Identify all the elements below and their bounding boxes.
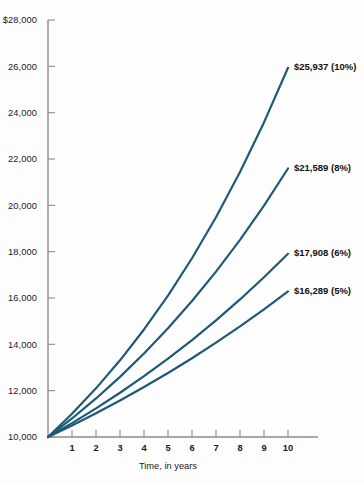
series-annotation: $21,589 (8%) — [294, 162, 351, 173]
y-tick-label: 20,000 — [8, 201, 37, 211]
y-axis-tick-labels: $28,00026,00024,00022,00020,00018,00016,… — [3, 15, 37, 442]
y-tick-label: 22,000 — [8, 154, 37, 164]
y-axis-ticks — [48, 20, 55, 437]
series-line — [48, 169, 288, 437]
x-tick-label: 10 — [283, 443, 293, 453]
compound-growth-chart: $28,00026,00024,00022,00020,00018,00016,… — [0, 0, 364, 484]
x-axis-ticks — [72, 430, 288, 437]
series-annotation: $17,908 (6%) — [294, 247, 351, 258]
y-tick-label: 24,000 — [8, 108, 37, 118]
y-tick-label: 16,000 — [8, 293, 37, 303]
y-tick-label: 26,000 — [8, 62, 37, 72]
x-axis-group: 12345678910 Time, in years — [48, 430, 318, 471]
y-tick-label: 10,000 — [8, 432, 37, 442]
y-tick-label: 12,000 — [8, 386, 37, 396]
series-annotation: $16,289 (5%) — [294, 285, 351, 296]
series-annotations-layer: $25,937 (10%)$21,589 (8%)$17,908 (6%)$16… — [294, 61, 356, 296]
x-tick-label: 9 — [261, 443, 266, 453]
y-tick-label: 14,000 — [8, 340, 37, 350]
series-line — [48, 68, 288, 437]
x-tick-label: 8 — [237, 443, 242, 453]
chart-canvas: $28,00026,00024,00022,00020,00018,00016,… — [0, 0, 364, 484]
y-axis-group: $28,00026,00024,00022,00020,00018,00016,… — [3, 15, 55, 442]
y-tick-label: 18,000 — [8, 247, 37, 257]
x-tick-label: 1 — [69, 443, 74, 453]
series-lines-layer — [48, 68, 288, 437]
x-tick-label: 5 — [165, 443, 170, 453]
series-annotation: $25,937 (10%) — [294, 61, 356, 72]
x-tick-label: 6 — [189, 443, 194, 453]
y-tick-label: $28,000 — [3, 15, 37, 25]
x-tick-label: 7 — [213, 443, 218, 453]
x-tick-label: 2 — [93, 443, 98, 453]
x-axis-tick-labels: 12345678910 — [69, 443, 293, 453]
x-axis-title: Time, in years — [139, 461, 197, 471]
x-tick-label: 4 — [141, 443, 147, 453]
x-tick-label: 3 — [117, 443, 122, 453]
